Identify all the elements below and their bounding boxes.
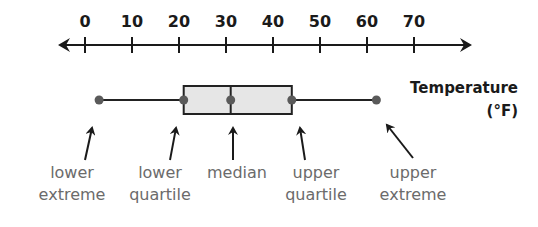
upper-quartile-point [287,96,296,105]
annotation-label: median [207,163,267,182]
tick-label: 20 [168,12,190,31]
tick-label: 50 [309,12,331,31]
median-point [226,96,235,105]
lower-quartile-point [179,96,188,105]
tick-label: 10 [121,12,143,31]
annotation-arrow [170,128,176,160]
tick-label: 30 [215,12,237,31]
annotation-label: extreme [39,185,106,204]
annotation-label: quartile [285,185,347,204]
box-plot-diagram: 010203040506070Temperature(°F)lowerextre… [0,0,538,227]
annotation-arrow [85,128,92,160]
annotation-arrow [300,128,305,160]
annotation-label: upper [293,163,340,182]
tick-label: 40 [262,12,284,31]
lower-extreme-point [95,96,104,105]
axis-unit: (°F) [487,102,518,120]
interquartile-box [184,86,292,114]
annotation-label: quartile [129,185,191,204]
tick-label: 0 [79,12,90,31]
tick-label: 60 [356,12,378,31]
annotation-label: lower [50,163,94,182]
upper-extreme-point [372,96,381,105]
annotation-label: upper [390,163,437,182]
annotation-arrow [387,125,413,158]
annotation-label: extreme [380,185,447,204]
annotation-label: lower [138,163,182,182]
axis-title: Temperature [410,79,518,97]
tick-label: 70 [403,12,425,31]
